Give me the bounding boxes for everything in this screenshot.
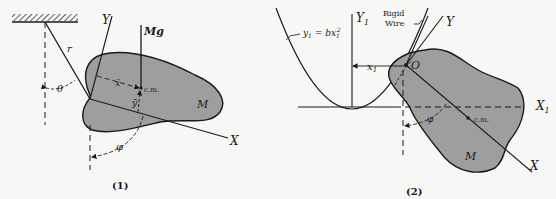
label-theta: θ	[57, 83, 63, 94]
label-phi: φ	[116, 141, 123, 152]
caption-2: (2)	[406, 186, 422, 197]
label-equation: y1 = bx12	[302, 26, 341, 39]
label-X1: X1	[535, 99, 550, 115]
label-M: M	[464, 150, 477, 163]
label-X: X	[529, 159, 539, 173]
label-wire: Wire	[385, 19, 404, 28]
center-of-mass-dot	[139, 86, 142, 89]
ceiling-support	[12, 14, 78, 21]
figure-1: Y Mg r θ x̄ c.m. ȳ M φ X (1)	[12, 13, 239, 191]
center-of-mass-dot	[466, 116, 470, 120]
label-cm: c.m.	[144, 86, 159, 94]
label-cm: c.m.	[474, 116, 489, 124]
figure-2: Y1 Rigid Wire Y y1 = bx12 x1 O X1 φ c.m.…	[276, 8, 550, 197]
rigid-wire-pointer	[414, 20, 422, 24]
label-M: M	[196, 98, 209, 111]
label-r: r	[67, 43, 73, 54]
label-O: O	[411, 59, 420, 72]
string-r	[45, 22, 90, 99]
caption-1: (1)	[112, 180, 128, 191]
physics-diagram: Y Mg r θ x̄ c.m. ȳ M φ X (1)	[0, 0, 556, 199]
label-rigid: Rigid	[383, 9, 404, 18]
label-X: X	[229, 134, 239, 148]
label-Y: Y	[102, 13, 111, 27]
label-phi: φ	[427, 114, 434, 124]
label-x1: x1	[367, 61, 377, 74]
label-xbar: x̄	[115, 78, 120, 88]
label-ybar: ȳ	[131, 98, 138, 108]
label-Y1: Y1	[356, 11, 369, 27]
label-Y: Y	[446, 15, 455, 29]
label-Mg: Mg	[143, 25, 164, 38]
